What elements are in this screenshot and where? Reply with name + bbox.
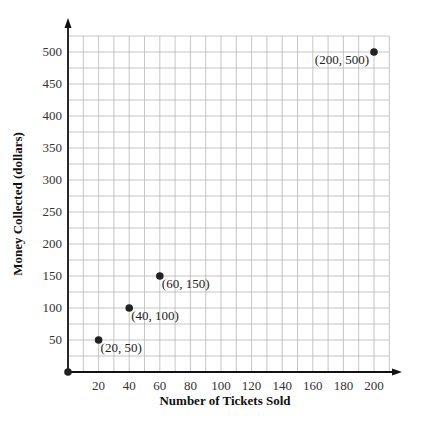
svg-text:200: 200 (364, 378, 384, 393)
svg-text:350: 350 (43, 140, 63, 155)
svg-text:120: 120 (242, 378, 262, 393)
axes (65, 18, 403, 376)
svg-text:40: 40 (123, 378, 136, 393)
x-tick-labels: 20406080100120140160180200 (92, 378, 384, 393)
y-axis-arrow-icon (65, 18, 72, 28)
svg-text:400: 400 (43, 108, 63, 123)
svg-text:(60, 150): (60, 150) (162, 276, 210, 291)
svg-text:(40, 100): (40, 100) (131, 308, 179, 323)
svg-text:100: 100 (211, 378, 231, 393)
svg-text:80: 80 (184, 378, 197, 393)
svg-text:60: 60 (153, 378, 166, 393)
svg-text:50: 50 (49, 332, 62, 347)
svg-text:250: 250 (43, 204, 63, 219)
data-point (370, 48, 378, 56)
svg-text:450: 450 (43, 76, 63, 91)
y-tick-labels: 50100150200250300350400450500 (43, 44, 63, 347)
svg-text:200: 200 (43, 236, 63, 251)
svg-text:(200, 500): (200, 500) (315, 52, 369, 67)
svg-text:160: 160 (303, 378, 323, 393)
svg-text:500: 500 (43, 44, 63, 59)
x-axis-title: Number of Tickets Sold (159, 393, 291, 408)
svg-text:100: 100 (43, 300, 63, 315)
svg-text:20: 20 (92, 378, 105, 393)
grid-lines (68, 36, 389, 372)
svg-text:(20, 50): (20, 50) (101, 340, 142, 355)
scatter-chart: 20406080100120140160180200 5010015020025… (0, 0, 427, 425)
x-axis-arrow-icon (392, 369, 402, 376)
svg-text:150: 150 (43, 268, 63, 283)
svg-text:300: 300 (43, 172, 63, 187)
svg-text:140: 140 (272, 378, 292, 393)
y-axis-title: Money Collected (dollars) (10, 132, 25, 276)
svg-text:180: 180 (334, 378, 354, 393)
data-point (64, 368, 72, 376)
